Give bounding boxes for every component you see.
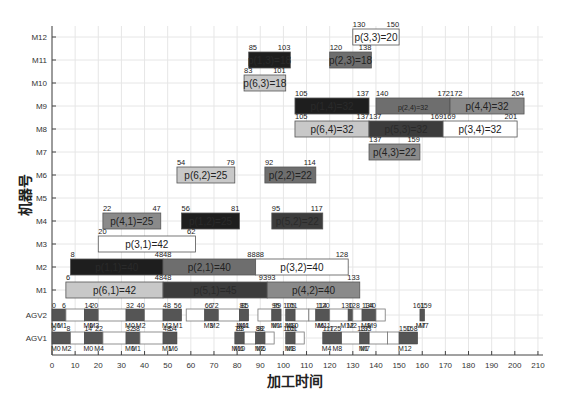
y-tick-label: M4 [36, 217, 48, 226]
agv-loaded-move [420, 309, 425, 321]
agv-empty-move [295, 309, 309, 321]
agv-empty-move [140, 332, 163, 344]
start-time-label: 95 [272, 204, 280, 213]
operation-label: p(4,1)=25 [110, 216, 154, 227]
operation-label: p(5,3)=32 [384, 124, 428, 135]
operation-label: p(1,4)=32 [310, 101, 354, 112]
svg-text:14: 14 [84, 325, 92, 332]
svg-text:125: 125 [330, 325, 342, 332]
y-tick-label: M5 [36, 194, 48, 203]
agv-tracks: 06M0M11420M0M33240M0M24856M2M16672M3M281… [51, 302, 432, 352]
svg-text:54: 54 [169, 325, 177, 332]
end-time-label: 81 [231, 204, 239, 213]
y-tick-label: M9 [36, 102, 48, 111]
agv-empty-move [71, 332, 85, 344]
svg-text:161: 161 [413, 302, 425, 309]
x-tick-label: 80 [233, 361, 242, 370]
agv-to-label: M6 [256, 345, 266, 352]
svg-text:105: 105 [283, 325, 295, 332]
operation-bar: p(2,2)=2292114 [265, 158, 316, 183]
operation-bar: p(4,2)=4093133 [267, 273, 360, 298]
x-tick-label: 190 [485, 361, 499, 370]
operation-bar: p(6,1)=42648 [66, 273, 163, 298]
operation-bar: p(2,3)=18120138 [329, 43, 373, 68]
agv-from-label: M0 [51, 345, 61, 352]
operation-bar: p(4,4)=32172204 [450, 89, 524, 114]
operation-bar: p(6,4)=32105137 [295, 112, 369, 137]
agv-to-label: M8 [286, 345, 296, 352]
operation-bar: p(6,2)=255479 [177, 158, 235, 183]
svg-text:83: 83 [236, 325, 244, 332]
end-time-label: 103 [278, 43, 291, 52]
agv-loaded-move [163, 309, 182, 321]
operation-bar: p(1,1)=40848 [71, 250, 164, 275]
operation-label: p(5,2)=22 [276, 216, 320, 227]
x-tick-label: 10 [71, 361, 80, 370]
operation-bar: p(1,2)=255681 [182, 204, 240, 229]
start-time-label: 85 [249, 43, 257, 52]
svg-text:140: 140 [364, 302, 376, 309]
start-time-label: 105 [295, 112, 308, 121]
x-tick-label: 130 [346, 361, 360, 370]
agv-loaded-move [316, 309, 330, 321]
agv-to-label: M12 [340, 322, 354, 329]
agv-empty-move [66, 309, 85, 321]
agv-loaded-move [362, 309, 376, 321]
start-time-label: 169 [443, 112, 456, 121]
operation-bar: p(3,1)=422062 [98, 227, 195, 252]
start-time-label: 54 [177, 158, 185, 167]
agv-task: 8892M2M6 [255, 325, 275, 352]
x-tick-label: 100 [277, 361, 291, 370]
operation-bar: p(5,2)=2295117 [272, 204, 323, 229]
end-time-label: 172 [437, 89, 450, 98]
start-time-label: 22 [103, 204, 111, 213]
agv-empty-move [258, 309, 272, 321]
x-tick-label: 210 [531, 361, 545, 370]
end-time-label: 88 [247, 250, 255, 259]
operation-bar: p(3,4)=32169201 [443, 112, 517, 137]
start-time-label: 172 [450, 89, 463, 98]
start-time-label: 20 [98, 227, 106, 236]
agv-from-label: M4 [322, 345, 332, 352]
operation-label: p(4,4)=32 [465, 101, 509, 112]
agv-loaded-move [323, 332, 342, 344]
x-tick-label: 200 [508, 361, 522, 370]
x-tick-label: 110 [300, 361, 313, 370]
agv-empty-move [353, 309, 362, 321]
start-time-label: 140 [376, 89, 389, 98]
agv-empty-move [219, 309, 240, 321]
end-time-label: 159 [407, 135, 420, 144]
end-time-label: 138 [359, 43, 372, 52]
svg-text:105: 105 [283, 302, 295, 309]
operation-bar: p(4,1)=252247 [103, 204, 161, 229]
agv-loaded-move [360, 332, 369, 344]
agv-empty-move [309, 309, 316, 321]
agv-to-label: M4 [272, 322, 282, 329]
end-time-label: 137 [357, 89, 370, 98]
x-tick-label: 120 [323, 361, 337, 370]
end-time-label: 169 [431, 112, 444, 121]
end-time-label: 79 [226, 158, 234, 167]
agv-task: 101105M1M8 [283, 325, 304, 352]
end-time-label: 204 [512, 89, 525, 98]
x-tick-label: 70 [210, 361, 219, 370]
agv-empty-move [186, 309, 205, 321]
operation-label: p(6,1)=42 [93, 285, 137, 296]
start-time-label: 137 [369, 112, 382, 121]
svg-text:120: 120 [318, 302, 330, 309]
svg-text:48: 48 [163, 302, 171, 309]
end-time-label: 133 [347, 273, 360, 282]
operation-label: p(4,3)=22 [373, 147, 417, 158]
svg-text:0: 0 [52, 302, 56, 309]
agv-loaded-move [163, 332, 177, 344]
end-time-label: 48 [155, 273, 163, 282]
x-tick-label: 30 [117, 361, 126, 370]
agv-empty-move [265, 332, 274, 344]
y-tick-label: AGV1 [26, 334, 48, 343]
agv-to-label: M2 [210, 322, 220, 329]
agv-task: 7983M6M10 [231, 325, 255, 352]
agv-empty-move [103, 332, 126, 344]
agv-loaded-move [126, 332, 140, 344]
start-time-label: 120 [330, 43, 343, 52]
agv-loaded-move [272, 309, 281, 321]
